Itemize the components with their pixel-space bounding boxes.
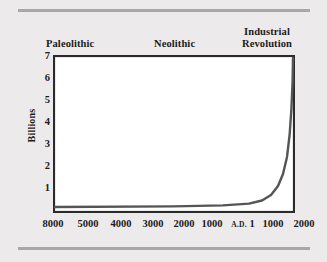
- y-axis-title: Billions: [26, 91, 37, 161]
- x-tick-label-ad-year: 1: [249, 218, 254, 229]
- y-tick-label: 5: [36, 94, 50, 105]
- era-label-industrial-revolution: Industrial Revolution: [236, 26, 298, 49]
- x-tick-label: 5000: [70, 218, 106, 229]
- plot-frame: [54, 56, 294, 212]
- y-tick-label: 3: [36, 138, 50, 149]
- population-curve-svg: [53, 55, 295, 213]
- y-tick-label: 2: [36, 160, 50, 171]
- x-tick-label: 4000: [103, 218, 139, 229]
- y-tick-label: 7: [36, 50, 50, 61]
- era-label-paleolithic: Paleolithic: [46, 38, 94, 50]
- population-growth-figure: Paleolithic Neolithic Industrial Revolut…: [0, 0, 327, 262]
- plot-area: [53, 55, 295, 213]
- top-rule: [18, 9, 310, 12]
- y-tick-label: 1: [36, 182, 50, 193]
- x-tick-label: 8000: [35, 218, 71, 229]
- bottom-rule: [18, 247, 310, 250]
- era-label-neolithic: Neolithic: [154, 38, 195, 50]
- y-tick-label: 6: [36, 72, 50, 83]
- x-tick-label-ad-prefix: A.D.: [231, 220, 246, 229]
- x-tick-label: 2000: [286, 218, 322, 229]
- y-tick-label: 4: [36, 116, 50, 127]
